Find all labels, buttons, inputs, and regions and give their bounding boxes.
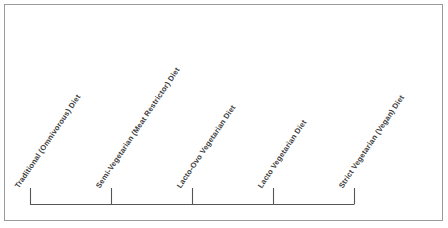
diet-spectrum-figure: Traditional (Omnivorous) Diet Semi-Veget… bbox=[0, 0, 448, 228]
plot-area: Traditional (Omnivorous) Diet Semi-Veget… bbox=[0, 0, 448, 228]
